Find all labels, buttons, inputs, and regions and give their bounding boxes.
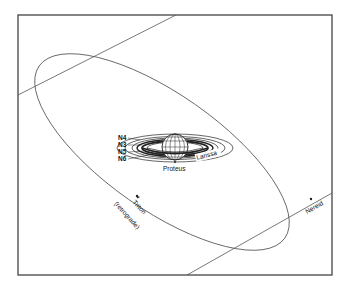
label-n3: N3: [118, 141, 127, 148]
label-n4: N4: [118, 134, 127, 141]
neptune-planet: [162, 134, 188, 160]
label-n6: N6: [118, 155, 127, 162]
nereid-orbit-line: [18, 15, 176, 95]
nereid-marker: [310, 198, 312, 200]
label-proteus: Proteus: [163, 165, 186, 172]
proteus-marker: [174, 161, 176, 163]
label-n5: N5: [118, 148, 127, 155]
neptune-orbits-diagram: N4 N3 N5 N6 Larissa Proteus Triton (retr…: [0, 0, 348, 286]
label-triton: Triton: [132, 198, 148, 215]
label-nereid: Nereid: [304, 199, 324, 215]
